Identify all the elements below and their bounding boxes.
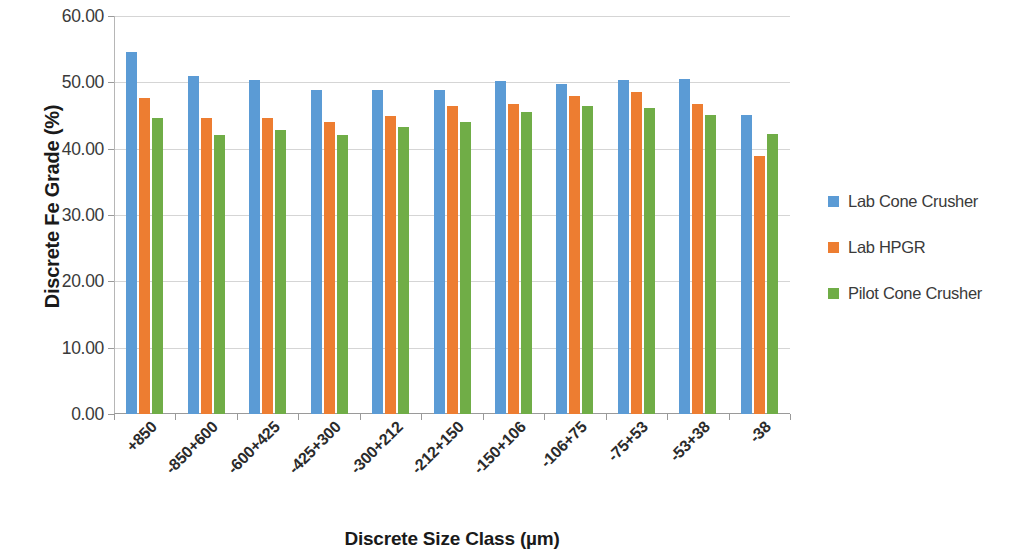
- bar[interactable]: [679, 79, 690, 414]
- bar[interactable]: [767, 134, 778, 414]
- x-axis-title: Discrete Size Class (µm): [114, 528, 790, 550]
- bar[interactable]: [188, 76, 199, 414]
- bar[interactable]: [644, 108, 655, 414]
- y-axis-tick-label: 30.00: [20, 205, 104, 226]
- bar[interactable]: [754, 156, 765, 414]
- x-axis-tick-label: -600+425: [224, 418, 284, 478]
- x-axis-tick-label: -38: [746, 418, 775, 447]
- bar[interactable]: [324, 122, 335, 414]
- bar-group: [434, 16, 471, 414]
- bar-group: [556, 16, 593, 414]
- legend: Lab Cone CrusherLab HPGRPilot Cone Crush…: [828, 178, 1012, 316]
- plot-area: [114, 16, 790, 414]
- x-axis-tick-label: +850: [123, 418, 161, 456]
- bar[interactable]: [460, 122, 471, 414]
- bar-group: [372, 16, 409, 414]
- y-axis-tick-label: 0.00: [20, 404, 104, 425]
- bar[interactable]: [311, 90, 322, 414]
- bar[interactable]: [434, 90, 445, 414]
- x-axis-tick-label: -53+38: [666, 418, 713, 465]
- bar[interactable]: [447, 106, 458, 414]
- bar-group: [679, 16, 716, 414]
- bar-group: [311, 16, 348, 414]
- bar[interactable]: [692, 104, 703, 414]
- bar[interactable]: [214, 135, 225, 414]
- bar[interactable]: [139, 98, 150, 414]
- legend-label: Pilot Cone Crusher: [848, 284, 982, 303]
- bars-layer: [114, 16, 790, 414]
- bar[interactable]: [201, 118, 212, 414]
- bar[interactable]: [249, 80, 260, 414]
- y-axis-tick-label: 40.00: [20, 138, 104, 159]
- bar[interactable]: [521, 112, 532, 414]
- bar[interactable]: [741, 115, 752, 414]
- legend-entry[interactable]: Lab HPGR: [828, 224, 1012, 270]
- bar[interactable]: [582, 106, 593, 414]
- x-axis-tick-label: -212+150: [408, 418, 468, 478]
- bar[interactable]: [556, 84, 567, 414]
- bar[interactable]: [398, 127, 409, 414]
- legend-color-swatch: [828, 288, 839, 299]
- x-axis-tick-label: -425+300: [285, 418, 345, 478]
- x-axis-tick-label: -850+600: [162, 418, 222, 478]
- bar-group: [188, 16, 225, 414]
- y-axis-tick-label: 10.00: [20, 337, 104, 358]
- legend-label: Lab HPGR: [848, 238, 925, 257]
- bar-chart: Discrete Fe Grade (%) 0.0010.0020.0030.0…: [0, 0, 1012, 558]
- legend-color-swatch: [828, 242, 839, 253]
- bar[interactable]: [262, 118, 273, 414]
- bar[interactable]: [705, 115, 716, 414]
- bar-group: [618, 16, 655, 414]
- y-axis-tick-label: 20.00: [20, 271, 104, 292]
- legend-entry[interactable]: Pilot Cone Crusher: [828, 270, 1012, 316]
- legend-color-swatch: [828, 196, 839, 207]
- x-axis-tick-mark: [790, 414, 791, 420]
- bar[interactable]: [569, 96, 580, 414]
- bar[interactable]: [275, 130, 286, 414]
- bar[interactable]: [508, 104, 519, 414]
- bar[interactable]: [337, 135, 348, 414]
- y-axis-tick-label: 50.00: [20, 72, 104, 93]
- bar[interactable]: [385, 116, 396, 414]
- bar-group: [741, 16, 778, 414]
- bar[interactable]: [495, 81, 506, 414]
- bar[interactable]: [126, 52, 137, 414]
- bar[interactable]: [152, 118, 163, 415]
- x-axis-tick-label: -75+53: [605, 418, 652, 465]
- bar-group: [126, 16, 163, 414]
- bar[interactable]: [618, 80, 629, 414]
- bar-group: [495, 16, 532, 414]
- x-axis-tick-label: -106+75: [537, 418, 591, 472]
- y-axis-tick-labels: 0.0010.0020.0030.0040.0050.0060.00: [20, 0, 104, 558]
- x-axis-tick-labels: +850-850+600-600+425-425+300-300+212-212…: [114, 418, 790, 518]
- bar[interactable]: [631, 92, 642, 414]
- y-axis-tick-label: 60.00: [20, 6, 104, 27]
- legend-label: Lab Cone Crusher: [848, 192, 978, 211]
- x-axis-tick-label: -150+106: [470, 418, 530, 478]
- bar[interactable]: [372, 90, 383, 414]
- bar-group: [249, 16, 286, 414]
- x-axis-tick-label: -300+212: [347, 418, 407, 478]
- legend-entry[interactable]: Lab Cone Crusher: [828, 178, 1012, 224]
